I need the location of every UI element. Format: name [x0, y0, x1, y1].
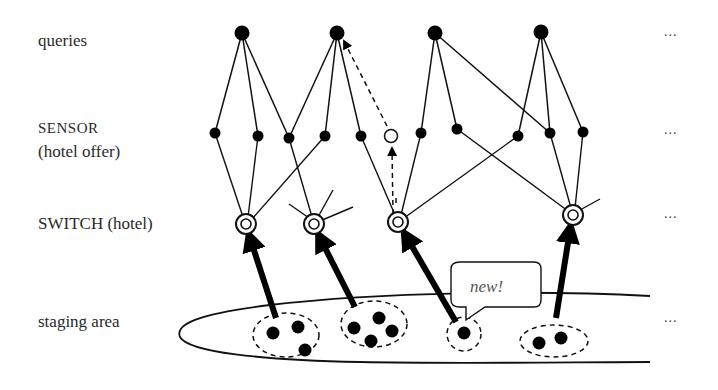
- sensor-node: [284, 133, 295, 144]
- query-nodes: [235, 25, 549, 41]
- dashed-edges: [344, 41, 396, 214]
- staging-groups: [253, 301, 588, 357]
- sensor-switch-edges: [215, 129, 600, 221]
- switch-node: [304, 214, 324, 234]
- callout-text: new!: [470, 277, 503, 296]
- staging-area: [179, 293, 650, 363]
- sensor-node: [416, 128, 427, 139]
- staging-group-4: [520, 325, 588, 357]
- query-node: [235, 26, 250, 41]
- sensor-node: [320, 131, 331, 142]
- new-callout: new!: [451, 262, 541, 320]
- switch-node: [388, 212, 408, 232]
- staging-group-3-new: [447, 317, 481, 351]
- query-sensor-edges: [215, 32, 583, 138]
- switch-nodes: [236, 205, 583, 234]
- staging-group-1: [253, 313, 319, 357]
- sensor-node: [356, 131, 367, 142]
- query-node: [330, 26, 345, 41]
- sensor-node: [210, 128, 221, 139]
- network-diagram: new!: [0, 0, 718, 390]
- sensor-node: [578, 127, 589, 138]
- sensor-node: [513, 131, 524, 142]
- sensor-node: [253, 131, 264, 142]
- query-node: [428, 26, 443, 41]
- switch-node: [236, 214, 256, 234]
- query-node: [534, 25, 549, 40]
- sensor-node: [452, 124, 463, 135]
- sensor-node: [545, 128, 556, 139]
- switch-node: [563, 205, 583, 225]
- staging-group-2: [341, 301, 407, 348]
- sensor-node-new: [385, 130, 398, 143]
- sensor-nodes: [210, 124, 589, 144]
